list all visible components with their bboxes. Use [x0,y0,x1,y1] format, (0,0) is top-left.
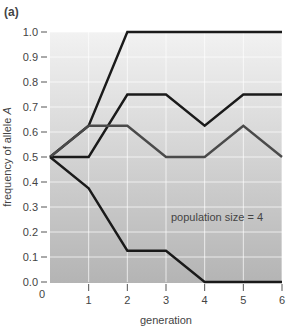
x-tick-label: 0 [39,288,45,300]
x-tick-label: 2 [124,294,130,306]
y-tick-label: 0.3 [23,201,38,213]
y-tick-label: 0.2 [23,226,38,238]
x-tick-label: 5 [240,294,246,306]
x-tick-label: 6 [279,294,285,306]
allele-frequency-chart: (a) 0.00.10.20.30.40.50.60.70.80.91.0012… [0,0,294,333]
y-tick-label: 0.5 [23,151,38,163]
annotation: population size = 4 [171,211,263,223]
y-axis-label: frequency of allele A [1,107,13,207]
x-tick-label: 1 [86,294,92,306]
y-tick-label: 0.9 [23,51,38,63]
panel-label: (a) [4,5,19,19]
x-tick-label: 4 [202,294,208,306]
y-tick-label: 0.7 [23,101,38,113]
x-tick-label: 3 [163,294,169,306]
y-tick-label: 1.0 [23,26,38,38]
y-tick-label: 0.1 [23,251,38,263]
x-axis-label: generation [140,314,192,326]
y-tick-label: 0.0 [23,276,38,288]
y-tick-label: 0.6 [23,126,38,138]
y-tick-label: 0.4 [23,176,38,188]
y-tick-label: 0.8 [23,76,38,88]
